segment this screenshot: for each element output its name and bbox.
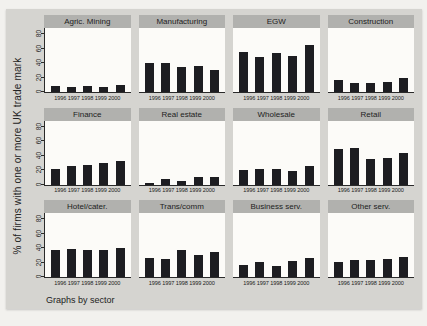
y-tick-mark: [41, 247, 44, 248]
x-tick-labels: 1996 1997 1998 1999 2000: [328, 187, 415, 193]
bar-1996: [51, 86, 60, 92]
panel-title: Hotel/cater.: [44, 200, 131, 213]
x-tick-labels: 1996 1997 1998 1999 2000: [44, 280, 131, 286]
panel-agric-mining: Agric. Mining0204060801996 1997 1998 199…: [44, 15, 131, 101]
panel-wholesale: Wholesale1996 1997 1998 1999 2000: [233, 108, 320, 194]
panel-trans-comm: Trans/comm1996 1997 1998 1999 2000: [139, 200, 226, 286]
panel-egw: EGW1996 1997 1998 1999 2000: [233, 15, 320, 101]
bar-1997: [67, 87, 76, 92]
panel-title: Agric. Mining: [44, 15, 131, 28]
panel-row-1: Agric. Mining0204060801996 1997 1998 199…: [44, 15, 422, 101]
plot-area: 020406080: [44, 121, 131, 186]
panel-other-serv: Other serv.1996 1997 1998 1999 2000: [328, 200, 415, 286]
panel-title: Wholesale: [233, 108, 320, 121]
bar-1998: [366, 159, 375, 185]
bar-1996: [145, 258, 154, 278]
y-tick-mark: [41, 33, 44, 34]
x-tick-labels: 1996 1997 1998 1999 2000: [44, 187, 131, 193]
bar-1999: [383, 82, 392, 92]
by-sector-note: Graphs by sector: [46, 295, 115, 305]
plot-area: [233, 213, 320, 278]
bar-1997: [255, 262, 264, 277]
chart-canvas: % of firms with one or more UK trade mar…: [6, 9, 422, 309]
plot-area: [233, 121, 320, 186]
bar-1999: [194, 66, 203, 92]
plot-area: 020406080: [44, 213, 131, 278]
bar-1998: [366, 260, 375, 277]
y-tick-mark: [41, 91, 44, 92]
y-tick-mark: [41, 155, 44, 156]
plot-area: [139, 28, 226, 93]
bar-1997: [350, 260, 359, 277]
x-tick-labels: 1996 1997 1998 1999 2000: [328, 280, 415, 286]
bar-1998: [83, 86, 92, 93]
y-tick-mark: [41, 218, 44, 219]
panel-finance: Finance0204060801996 1997 1998 1999 2000: [44, 108, 131, 194]
bar-1999: [194, 177, 203, 185]
bar-1996: [239, 265, 248, 277]
bar-1998: [272, 266, 281, 277]
plot-area: [233, 28, 320, 93]
plot-area: 020406080: [44, 28, 131, 93]
panel-construction: Construction1996 1997 1998 1999 2000: [328, 15, 415, 101]
bar-1996: [334, 262, 343, 277]
bar-2000: [399, 78, 408, 92]
bar-1999: [194, 255, 203, 277]
bar-1999: [99, 163, 108, 185]
x-tick-labels: 1996 1997 1998 1999 2000: [139, 95, 226, 101]
bar-1996: [145, 183, 154, 184]
bar-1997: [255, 57, 264, 92]
bar-1996: [334, 80, 343, 92]
y-tick-mark: [41, 276, 44, 277]
plot-area: [328, 213, 415, 278]
y-axis-title: % of firms with one or more UK trade mar…: [12, 26, 26, 286]
bar-1999: [99, 250, 108, 277]
bar-1999: [288, 56, 297, 92]
bar-2000: [116, 248, 125, 277]
panel-title: Business serv.: [233, 200, 320, 213]
plot-area: [328, 28, 415, 93]
y-tick-mark: [41, 184, 44, 185]
x-tick-labels: 1996 1997 1998 1999 2000: [233, 187, 320, 193]
bar-1996: [334, 149, 343, 184]
panel-title: EGW: [233, 15, 320, 28]
y-tick-mark: [41, 126, 44, 127]
bar-1998: [177, 67, 186, 92]
bar-1998: [272, 53, 281, 92]
y-tick-mark: [41, 77, 44, 78]
panel-row-3: Hotel/cater.0204060801996 1997 1998 1999…: [44, 200, 422, 286]
x-tick-labels: 1996 1997 1998 1999 2000: [44, 95, 131, 101]
y-tick-mark: [41, 48, 44, 49]
bar-2000: [210, 177, 219, 184]
bar-2000: [305, 258, 314, 278]
bar-1996: [51, 250, 60, 277]
x-tick-labels: 1996 1997 1998 1999 2000: [139, 187, 226, 193]
bar-1997: [161, 179, 170, 185]
y-tick-mark: [41, 262, 44, 263]
bar-2000: [116, 85, 125, 92]
panel-manufacturing: Manufacturing1996 1997 1998 1999 2000: [139, 15, 226, 101]
x-tick-labels: 1996 1997 1998 1999 2000: [233, 95, 320, 101]
panel-real-estate: Real estate1996 1997 1998 1999 2000: [139, 108, 226, 194]
y-tick-mark: [41, 140, 44, 141]
panel-retail: Retail1996 1997 1998 1999 2000: [328, 108, 415, 194]
panel-row-2: Finance0204060801996 1997 1998 1999 2000…: [44, 108, 422, 194]
bar-2000: [399, 153, 408, 185]
panel-title: Other serv.: [328, 200, 415, 213]
bar-1996: [239, 52, 248, 92]
bar-1997: [350, 83, 359, 92]
bar-1999: [99, 87, 108, 92]
bar-1998: [272, 169, 281, 184]
bar-1999: [288, 261, 297, 277]
panel-title: Retail: [328, 108, 415, 121]
bar-1998: [83, 165, 92, 185]
bar-1997: [67, 249, 76, 277]
bar-1998: [177, 250, 186, 277]
bar-2000: [116, 161, 125, 185]
panel-title: Construction: [328, 15, 415, 28]
bar-1996: [239, 170, 248, 184]
panel-business-serv: Business serv.1996 1997 1998 1999 2000: [233, 200, 320, 286]
bar-1996: [145, 63, 154, 92]
panel-title: Finance: [44, 108, 131, 121]
bar-1998: [366, 83, 375, 92]
